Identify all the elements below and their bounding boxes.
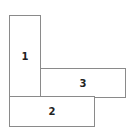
rectangle-2: 2 — [9, 96, 95, 127]
rectangle-3: 3 — [40, 68, 126, 98]
rectangle-1-label: 1 — [22, 51, 29, 62]
rectangle-1: 1 — [9, 15, 41, 97]
rectangle-2-label: 2 — [49, 106, 56, 117]
rectangle-3-label: 3 — [80, 78, 87, 89]
